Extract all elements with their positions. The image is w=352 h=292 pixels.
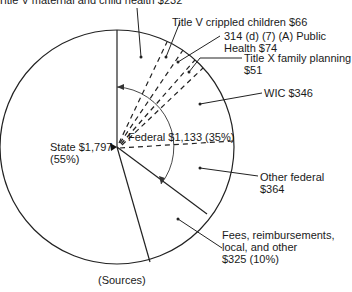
dot-ph: [177, 61, 180, 64]
label-fees-3: $325 (10%): [222, 253, 279, 265]
dot-wic: [199, 103, 202, 106]
label-other-2: $364: [260, 183, 284, 195]
label-other-1: Other federal: [260, 171, 324, 183]
label-state-2: (55%): [50, 153, 79, 165]
chart-caption: (Sources): [98, 274, 146, 286]
dot-mch: [140, 56, 143, 59]
federal-arc-arrow-top: [117, 84, 124, 90]
label-fees-1: Fees, reimbursements,: [222, 229, 334, 241]
leader-tx: [189, 58, 242, 72]
leader-other: [200, 168, 258, 176]
label-state-1: State $1,797: [50, 141, 112, 153]
label-federal: Federal $1,133 (35%): [128, 131, 234, 143]
label-mch: Title V maternal and child health $232: [0, 0, 182, 6]
label-ph-1: 314 (d) (7) (A) Public: [224, 30, 326, 42]
dot-other: [199, 167, 202, 170]
label-crippled: Title V crippled children $66: [172, 16, 307, 28]
leader-wic: [200, 93, 262, 104]
dot-fees: [177, 218, 180, 221]
dot-tx: [188, 71, 191, 74]
boundary-fees-state: [117, 147, 150, 262]
label-wic: WIC $346: [264, 87, 313, 99]
label-fees-2: local, and other: [222, 241, 297, 253]
label-tx-1: Title X family planning: [244, 52, 351, 64]
dot-crippled: [165, 56, 168, 59]
leader-fees: [178, 219, 222, 248]
boundary-crippled-ph: [120, 50, 183, 143]
label-tx-2: $51: [244, 64, 262, 76]
boundary-mch-crippled: [119, 42, 167, 143]
